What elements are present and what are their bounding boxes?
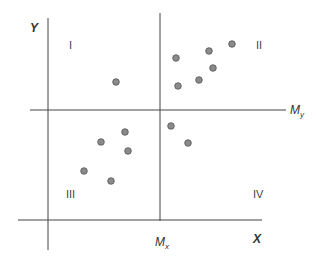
data-point bbox=[108, 178, 115, 185]
data-point bbox=[168, 123, 175, 130]
data-point bbox=[122, 129, 129, 136]
data-point bbox=[229, 41, 236, 48]
data-point bbox=[210, 65, 217, 72]
data-point bbox=[81, 168, 88, 175]
data-point bbox=[98, 139, 105, 146]
y-mean-label: My bbox=[290, 104, 304, 119]
y-axis-label: Y bbox=[30, 22, 38, 34]
data-point bbox=[196, 77, 203, 84]
quadrant-label-ii: II bbox=[256, 40, 262, 51]
x-mean-label-main: M bbox=[155, 235, 165, 249]
quadrant-label-i: I bbox=[69, 40, 72, 51]
data-point bbox=[185, 140, 192, 147]
data-point bbox=[125, 148, 132, 155]
x-mean-label: Mx bbox=[155, 236, 169, 251]
x-mean-label-sub: x bbox=[165, 242, 169, 251]
data-points bbox=[81, 41, 236, 185]
data-point bbox=[175, 83, 182, 90]
quadrant-label-iv: IV bbox=[253, 189, 263, 200]
quadrant-label-iii: III bbox=[66, 189, 75, 200]
data-point bbox=[113, 79, 120, 86]
y-mean-label-main: M bbox=[290, 103, 300, 117]
x-axis-label: X bbox=[253, 233, 261, 245]
quadrant-scatter-diagram bbox=[0, 0, 316, 264]
y-mean-label-sub: y bbox=[300, 110, 304, 119]
data-point bbox=[206, 48, 213, 55]
data-point bbox=[173, 55, 180, 62]
